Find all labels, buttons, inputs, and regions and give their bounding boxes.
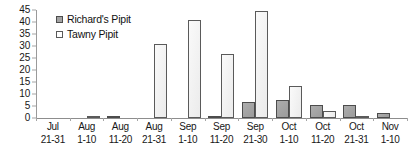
bar-richards [343, 105, 356, 118]
legend-label-richards-pipit: Richard's Pipit [67, 13, 131, 25]
x-axis-category-label: Aug21-31 [137, 120, 171, 146]
x-axis-tick-mark [340, 118, 341, 121]
y-axis-tick-label: 10 [19, 89, 30, 99]
y-axis-tick-label: 45 [19, 5, 30, 15]
x-axis-tick-mark [306, 118, 307, 121]
x-axis-category-label: Aug11-20 [103, 120, 137, 146]
x-axis-label-days: 11-20 [205, 133, 239, 146]
bar-group [340, 10, 374, 118]
chart-legend: Richard's Pipit Tawny Pipit [56, 13, 131, 40]
legend-item-richards-pipit: Richard's Pipit [56, 13, 131, 25]
legend-label-tawny-pipit: Tawny Pipit [67, 28, 118, 40]
y-axis: 051015202530354045 [0, 10, 36, 119]
x-axis-label-month: Oct [340, 120, 374, 133]
y-axis-tick-label: 40 [19, 17, 30, 27]
bar-group [373, 10, 407, 118]
x-axis-label-month: Aug [70, 120, 104, 133]
y-axis-tick-label: 25 [19, 53, 30, 63]
x-axis-tick-mark [70, 118, 71, 121]
legend-swatch-icon-tawny-pipit [56, 31, 63, 38]
x-axis-label-month: Nov [373, 120, 407, 133]
x-axis-tick-mark [103, 118, 104, 121]
bar-richards [276, 100, 289, 118]
bar-tawny [356, 116, 369, 118]
legend-swatch-icon-richards-pipit [56, 16, 63, 23]
x-axis-tick-mark [407, 118, 408, 121]
x-axis-tick-mark [171, 118, 172, 121]
y-axis-tick-label: 20 [19, 65, 30, 75]
x-axis-label-days: 11-20 [306, 133, 340, 146]
bar-group [306, 10, 340, 118]
y-axis-tick-label: 5 [25, 101, 30, 111]
x-axis-label-month: Jul [36, 120, 70, 133]
x-axis-label-month: Oct [306, 120, 340, 133]
bar-richards [377, 113, 390, 118]
bar-tawny [323, 111, 336, 118]
bar-tawny [188, 20, 201, 118]
x-axis-tick-mark [272, 118, 273, 121]
x-axis-label-month: Aug [137, 120, 171, 133]
x-axis-label-days: 21-31 [340, 133, 374, 146]
x-axis-label-month: Sep [171, 120, 205, 133]
x-axis-label-days: 1-10 [272, 133, 306, 146]
bar-group [272, 10, 306, 118]
x-axis-label-days: 21-31 [36, 133, 70, 146]
bar-richards [208, 116, 221, 118]
bar-tawny [289, 86, 302, 118]
bar-tawny [87, 116, 100, 118]
x-axis-label-days: 11-20 [103, 133, 137, 146]
x-axis-label-days: 1-10 [373, 133, 407, 146]
y-axis-tick-label: 0 [25, 113, 30, 123]
x-axis-category-label: Sep11-20 [205, 120, 239, 146]
x-axis-label-month: Oct [272, 120, 306, 133]
x-axis-label-month: Aug [103, 120, 137, 133]
bar-group [137, 10, 171, 118]
bar-tawny [255, 11, 268, 118]
x-axis-label-days: 1-10 [171, 133, 205, 146]
x-axis-category-label: Oct1-10 [272, 120, 306, 146]
y-axis-tick-label: 30 [19, 41, 30, 51]
x-axis-label-month: Sep [238, 120, 272, 133]
x-axis-tick-mark [205, 118, 206, 121]
x-axis-label-days: 21-31 [137, 133, 171, 146]
x-axis-tick-mark [238, 118, 239, 121]
x-axis-category-label: Aug1-10 [70, 120, 104, 146]
x-axis-category-label: Sep21-30 [238, 120, 272, 146]
x-axis: Jul21-31Aug1-10Aug11-20Aug21-31Sep1-10Se… [36, 120, 407, 162]
x-axis-category-label: Jul21-31 [36, 120, 70, 146]
bar-group [171, 10, 205, 118]
x-axis-tick-mark [373, 118, 374, 121]
x-axis-label-days: 21-30 [238, 133, 272, 146]
y-axis-tick-label: 15 [19, 77, 30, 87]
x-axis-category-label: Oct11-20 [306, 120, 340, 146]
bar-group [238, 10, 272, 118]
x-axis-tick-mark [137, 118, 138, 121]
bar-richards [242, 102, 255, 118]
bar-group [205, 10, 239, 118]
legend-item-tawny-pipit: Tawny Pipit [56, 28, 131, 40]
x-axis-label-days: 1-10 [70, 133, 104, 146]
bar-chart: 051015202530354045 Jul21-31Aug1-10Aug11-… [0, 0, 413, 162]
y-axis-tick-label: 35 [19, 29, 30, 39]
x-axis-category-label: Sep1-10 [171, 120, 205, 146]
bar-tawny [221, 54, 234, 118]
bar-tawny [154, 44, 167, 118]
x-axis-category-label: Oct21-31 [340, 120, 374, 146]
bar-richards [310, 105, 323, 118]
x-axis-category-label: Nov1-10 [373, 120, 407, 146]
x-axis-tick-mark [36, 118, 37, 121]
x-axis-label-month: Sep [205, 120, 239, 133]
bar-richards [107, 116, 120, 118]
